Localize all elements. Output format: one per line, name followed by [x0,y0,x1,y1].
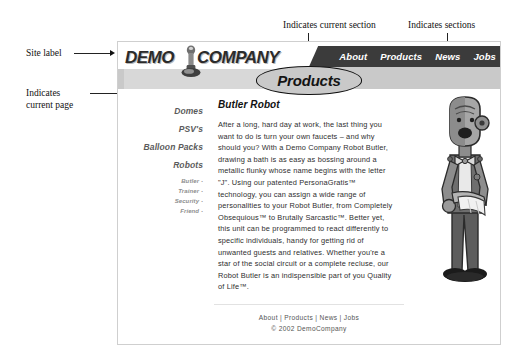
annotation-current-page: Indicates current page [26,88,73,111]
main-article: Butler Robot After a long, hard day at w… [210,99,500,297]
top-navigation[interactable]: About Products News Jobs [339,48,496,65]
logo-word-company: COMPANY [197,48,279,67]
footer-copyright: © 2002 DemoCompany [214,323,404,334]
footer-link-about[interactable]: About [259,314,278,321]
logo-text: DEMOCOMPANY [125,48,279,68]
footer-link-news[interactable]: News [320,314,338,321]
sidebar-subitem-butler[interactable]: Butler [118,178,203,184]
sidebar-subitem-security[interactable]: Security [118,198,203,204]
annotation-current-section: Indicates current section [283,20,376,32]
page-content: Domes PSV's Balloon Packs Robots Butler … [118,89,500,297]
robot-butler-illustration [428,93,501,289]
current-section-label: Products [277,72,340,89]
annotation-sections: Indicates sections [408,20,475,32]
arrowhead-site-label [110,50,115,56]
sidebar-subitem-trainer[interactable]: Trainer [118,188,203,194]
sidebar-item-psvs[interactable]: PSV's [118,124,203,134]
topnav-item-products[interactable]: Products [380,51,422,62]
site-footer: About | Products | News | Jobs © 2002 De… [214,304,404,334]
browser-page-frame: DEMOCOMPANY About Products News Jobs Pro… [117,41,501,345]
sidebar-item-domes[interactable]: Domes [118,106,203,116]
logo-word-demo: DEMO [125,48,174,67]
topnav-item-jobs[interactable]: Jobs [473,51,496,62]
robot-logo-icon [180,45,202,79]
sidebar-navigation[interactable]: Domes PSV's Balloon Packs Robots Butler … [118,99,210,297]
site-header: DEMOCOMPANY About Products News Jobs Pro… [118,42,500,89]
footer-link-products[interactable]: Products [284,314,313,321]
annotation-site-label: Site label [26,48,62,60]
current-section-badge: Products [256,66,362,95]
footer-link-jobs[interactable]: Jobs [344,314,359,321]
sidebar-subitem-friend[interactable]: Friend [118,208,203,214]
topnav-item-about[interactable]: About [339,51,367,62]
article-body: After a long, hard day at work, the last… [218,119,394,293]
leader-line-site-label [74,53,110,54]
site-logo[interactable]: DEMOCOMPANY [118,44,308,69]
topnav-item-news[interactable]: News [435,51,460,62]
sidebar-item-balloon-packs[interactable]: Balloon Packs [118,142,203,152]
sidebar-item-robots[interactable]: Robots [118,160,203,170]
footer-links[interactable]: About | Products | News | Jobs [214,312,404,323]
